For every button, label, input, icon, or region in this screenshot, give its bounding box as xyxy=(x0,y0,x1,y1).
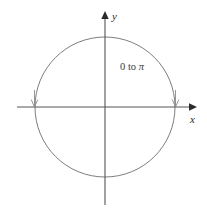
x-axis-arrowhead-icon xyxy=(189,103,197,111)
y-axis-arrowhead-icon xyxy=(101,11,108,19)
x-axis-label: x xyxy=(189,113,195,125)
pi-symbol: π xyxy=(139,61,145,72)
circle-diagram-svg: y x 0 to π xyxy=(0,0,207,212)
y-axis-label: y xyxy=(111,10,117,22)
figure-container: y x 0 to π xyxy=(0,0,207,212)
range-annotation-prefix: 0 to xyxy=(120,61,139,72)
range-annotation-label: 0 to π xyxy=(120,61,145,72)
